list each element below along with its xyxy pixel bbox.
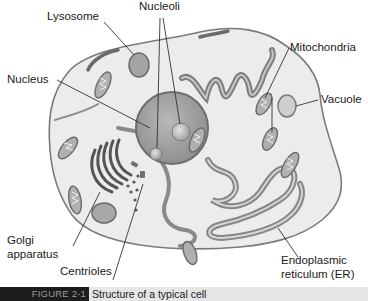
figure-number: FIGURE 2-1 [0, 287, 89, 301]
lysosome [129, 53, 149, 77]
label-er-line2: reticulum (ER) [281, 268, 354, 281]
label-lysosome: Lysosome [47, 10, 99, 23]
label-centrioles: Centrioles [60, 265, 112, 278]
label-mitochondria: Mitochondria [290, 41, 356, 54]
label-golgi-line1: Golgi [7, 234, 34, 247]
vacuole [278, 95, 296, 117]
nucleus [136, 92, 208, 164]
vesicle [92, 203, 116, 223]
label-nucleoli: Nucleoli [139, 0, 180, 13]
figure-caption: Structure of a typical cell [92, 287, 206, 301]
label-nucleus: Nucleus [7, 73, 49, 86]
label-golgi-line2: apparatus [7, 248, 58, 261]
label-vacuole: Vacuole [321, 93, 362, 106]
label-er-line1: Endoplasmic [281, 254, 347, 267]
nucleolus-small [150, 148, 162, 160]
nucleolus-large [172, 123, 190, 141]
